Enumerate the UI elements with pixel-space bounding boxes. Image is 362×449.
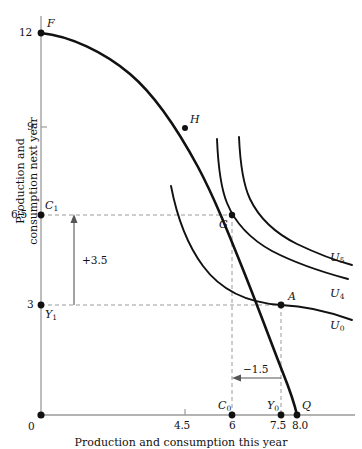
x-tick-label-7-5: 7.5 <box>270 420 286 431</box>
y-tick-label-12: 12 <box>19 27 32 38</box>
point-marker-A <box>278 302 285 309</box>
point-marker-G <box>229 212 235 218</box>
point-label-C1-sub: 1 <box>53 204 58 213</box>
curve-label-U4-text: U <box>330 286 340 300</box>
point-label-Q: Q <box>302 400 311 411</box>
annotation-label-decrease: −1.5 <box>243 364 269 375</box>
x-tick-label-8-0: 8.0 <box>292 420 308 431</box>
curve-label-U4: U4 <box>330 288 344 300</box>
y-tick-label-0: 0 <box>28 421 34 432</box>
curve-indifference-u0 <box>171 186 352 320</box>
annotation-label-increase: +3.5 <box>82 255 108 266</box>
point-label-A: A <box>288 291 296 302</box>
point-label-Y0: Y0 <box>267 400 279 412</box>
point-marker-F <box>38 30 45 37</box>
point-marker-Q <box>294 412 301 419</box>
point-label-Y1: Y1 <box>45 309 57 321</box>
annotation-arrow-left-head <box>232 375 241 382</box>
x-tick-label-4-5: 4.5 <box>174 420 190 431</box>
point-label-Y1-sub: 1 <box>52 313 57 322</box>
curve-label-U0-text: U <box>330 318 340 332</box>
point-marker-Y1 <box>38 302 45 309</box>
curve-indifference-u5 <box>239 137 352 265</box>
curve-label-U0: U0 <box>330 320 344 332</box>
curve-label-U5-text: U <box>330 250 340 264</box>
point-label-Y0-sub: 0 <box>274 404 279 413</box>
curve-label-U4-sub: 4 <box>340 292 345 301</box>
x-tick-label-6: 6 <box>229 420 235 431</box>
y-tick-label-9: 9 <box>27 121 33 132</box>
y-tick-label-6-5: 6.5 <box>11 209 27 220</box>
point-label-C0: C0 <box>218 400 231 412</box>
curve-production-frontier <box>41 33 297 415</box>
point-label-H: H <box>190 114 200 125</box>
curve-label-U5: U5 <box>330 252 344 264</box>
y-tick-label-3: 3 <box>27 299 33 310</box>
curve-label-U5-sub: 5 <box>340 256 345 265</box>
point-marker-origin <box>37 411 44 418</box>
point-label-C1: C1 <box>45 200 58 212</box>
point-marker-H <box>182 125 188 131</box>
point-label-G: G <box>219 219 228 230</box>
point-label-C0-sub: 0 <box>226 404 231 413</box>
point-label-F: F <box>47 18 55 29</box>
x-axis-title: Production and consumption this year <box>41 436 321 449</box>
curve-label-U0-sub: 0 <box>340 324 345 333</box>
